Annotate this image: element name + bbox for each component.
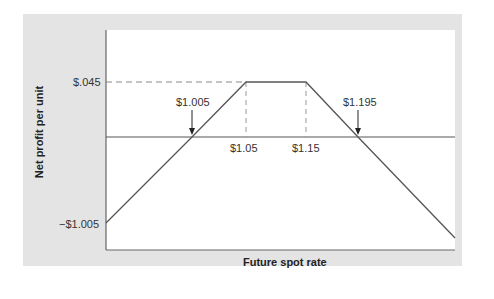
plot-area	[106, 30, 455, 250]
x-tick-1-15: $1.15	[292, 142, 320, 154]
y-tick-bottom: −$1.005	[59, 218, 99, 230]
y-tick-top: $.045	[73, 76, 101, 88]
y-axis-label: Net profit per unit	[33, 57, 45, 207]
x-tick-1-05: $1.05	[230, 142, 258, 154]
x-axis-label: Future spot rate	[243, 256, 327, 268]
annotation-left: $1.005	[176, 96, 210, 108]
annotation-right: $1.195	[343, 96, 377, 108]
